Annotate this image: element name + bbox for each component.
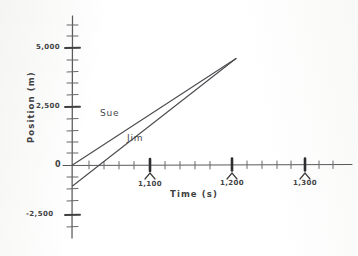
- position-axis-line: [72, 16, 73, 238]
- series-line-sue: [73, 59, 237, 166]
- y-axis-title: Position (m): [26, 71, 36, 143]
- series-label-sue: Sue: [100, 108, 119, 118]
- hand-drawn-plot: [0, 0, 358, 256]
- x-axis-tick-label-1300: 1,300: [293, 179, 317, 187]
- x-axis-tick-label-1200: 1,200: [220, 179, 244, 187]
- x-axis-tick-label-1100: 1,100: [138, 180, 162, 188]
- time-axis-line: [63, 165, 352, 166]
- series-line-jim: [73, 59, 237, 187]
- y-axis-tick-label-neg2500: -2,500: [26, 210, 53, 218]
- x-axis-title: Time (s): [170, 189, 218, 199]
- series-label-jim: Jim: [127, 133, 143, 143]
- y-axis-tick-label-5000: 5,000: [36, 43, 60, 51]
- graph-screenshot: 5,000 2,500 0 -2,500 1,100 1,200 1,300 T…: [0, 0, 358, 256]
- y-axis-tick-label-2500: 2,500: [36, 102, 60, 110]
- origin-label-zero: 0: [55, 160, 61, 169]
- axis-group: [63, 16, 352, 238]
